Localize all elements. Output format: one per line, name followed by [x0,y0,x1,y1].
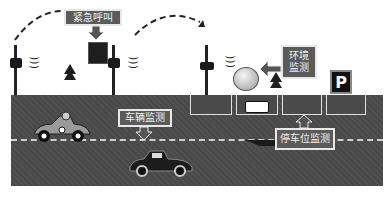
vintage-car-icon [128,147,194,177]
race-car-icon [30,110,92,144]
